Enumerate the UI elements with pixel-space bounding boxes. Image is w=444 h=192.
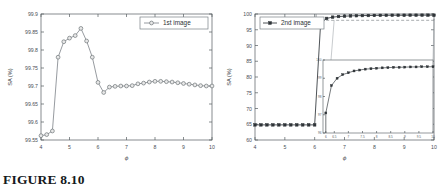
inset-y-tick-label: 97 — [318, 113, 322, 117]
inset-data-point — [330, 85, 332, 87]
x-tick-label-a: 5 — [68, 144, 71, 150]
inset-x-tick-label: 8 — [376, 135, 378, 139]
data-point-2nd-image — [391, 14, 394, 17]
data-point-1st-image — [187, 82, 191, 86]
inset-y-tick-label: 100 — [316, 58, 321, 62]
y-axis-label-b: SA (%) — [226, 68, 232, 86]
data-point-2nd-image — [385, 14, 388, 17]
y-tick-label-b: 100 — [243, 11, 252, 17]
x-tick-label-b: 5 — [283, 144, 286, 150]
inset-data-point — [336, 77, 338, 79]
inset-data-point — [370, 68, 372, 70]
legend-marker-b — [269, 22, 272, 25]
data-point-1st-image — [45, 133, 49, 137]
inset-data-point — [325, 112, 327, 114]
data-point-1st-image — [113, 84, 117, 88]
inset-y-tick-label: 99 — [318, 76, 322, 80]
inset-x-tick-label: 9 — [404, 135, 406, 139]
inset-data-point — [347, 72, 349, 74]
x-tick-label-a: 9 — [182, 144, 185, 150]
x-tick-label-b: 7 — [343, 144, 346, 150]
data-point-2nd-image — [427, 14, 430, 17]
inset-x-tick-label: 7 — [348, 135, 350, 139]
x-tick-label-b: 9 — [403, 144, 406, 150]
data-point-1st-image — [153, 79, 157, 83]
y-tick-label-a: 99.75 — [25, 65, 38, 71]
inset-x-tick-label: 10 — [431, 135, 435, 139]
inset-data-point — [381, 67, 383, 69]
inset-x-tick-label: 9.5 — [417, 135, 422, 139]
data-point-2nd-image — [260, 124, 263, 127]
inset-x-tick-label: 6 — [325, 135, 327, 139]
data-point-2nd-image — [373, 14, 376, 17]
y-tick-label-a: 99.9 — [28, 11, 38, 17]
data-point-1st-image — [130, 84, 134, 88]
data-point-1st-image — [147, 80, 151, 84]
data-point-2nd-image — [284, 124, 287, 127]
inset-data-point — [409, 66, 411, 68]
inset-x-tick-label: 7.5 — [360, 135, 365, 139]
inset-data-point — [398, 66, 400, 68]
data-point-1st-image — [102, 91, 106, 95]
data-point-1st-image — [39, 134, 43, 138]
data-point-2nd-image — [397, 14, 400, 17]
data-point-2nd-image — [367, 14, 370, 17]
legend-label-2nd-image: 2nd image — [281, 19, 311, 27]
x-tick-label-a: 6 — [97, 144, 100, 150]
data-point-2nd-image — [254, 124, 257, 127]
inset-data-point — [426, 66, 428, 68]
inset-x-tick-label: 8.5 — [389, 135, 394, 139]
data-point-2nd-image — [421, 14, 424, 17]
data-point-1st-image — [73, 34, 77, 38]
data-point-1st-image — [170, 80, 174, 84]
x-tick-label-a: 7 — [125, 144, 128, 150]
data-point-1st-image — [90, 55, 94, 59]
x-tick-label-a: 8 — [154, 144, 157, 150]
inset-data-point — [432, 66, 434, 68]
data-point-1st-image — [176, 81, 180, 85]
data-point-2nd-image — [266, 124, 269, 127]
data-point-2nd-image — [331, 16, 334, 19]
inset-y-tick-label: 98 — [318, 95, 322, 99]
data-point-1st-image — [165, 80, 169, 84]
figure-container: 99.5599.699.6599.799.7599.899.8599.94567… — [0, 0, 444, 192]
inset-data-point — [364, 68, 366, 70]
data-point-1st-image — [79, 27, 83, 31]
chart-panel-b: 606570758085909510045678910ϕSA (%)(b)66.… — [222, 0, 444, 165]
y-tick-label-a: 99.55 — [25, 137, 38, 143]
data-point-2nd-image — [343, 15, 346, 18]
data-point-2nd-image — [415, 14, 418, 17]
inset-data-point — [387, 67, 389, 69]
inset-data-point — [404, 66, 406, 68]
data-point-2nd-image — [325, 17, 328, 20]
data-point-1st-image — [56, 55, 60, 59]
data-point-1st-image — [182, 82, 186, 86]
data-point-1st-image — [136, 82, 140, 86]
y-tick-label-b: 85 — [246, 58, 252, 64]
inset-data-point — [353, 70, 355, 72]
y-tick-label-b: 90 — [246, 43, 252, 49]
chart-panel-a: 99.5599.699.6599.799.7599.899.8599.94567… — [0, 0, 222, 165]
inset-data-point — [421, 66, 423, 68]
data-point-1st-image — [193, 83, 197, 87]
y-tick-label-a: 99.7 — [28, 83, 38, 89]
data-point-2nd-image — [290, 124, 293, 127]
data-point-1st-image — [159, 79, 163, 83]
data-point-2nd-image — [409, 14, 412, 17]
x-axis-label-a: ϕ — [125, 154, 129, 162]
y-tick-label-b: 75 — [246, 90, 252, 96]
x-tick-label-b: 10 — [431, 144, 437, 150]
data-point-1st-image — [125, 84, 129, 88]
y-tick-label-a: 99.6 — [28, 119, 38, 125]
data-point-2nd-image — [278, 124, 281, 127]
data-point-2nd-image — [361, 14, 364, 17]
inset-y-tick-label: 96 — [318, 131, 322, 135]
chart-a-svg: 99.5599.699.6599.799.7599.899.8599.94567… — [0, 0, 222, 165]
data-point-1st-image — [204, 84, 208, 88]
data-point-2nd-image — [313, 124, 316, 127]
chart-b-svg: 606570758085909510045678910ϕSA (%)(b)66.… — [222, 0, 444, 165]
inset-data-point — [359, 69, 361, 71]
x-tick-label-b: 8 — [373, 144, 376, 150]
y-tick-label-b: 65 — [246, 121, 252, 127]
data-point-2nd-image — [403, 14, 406, 17]
